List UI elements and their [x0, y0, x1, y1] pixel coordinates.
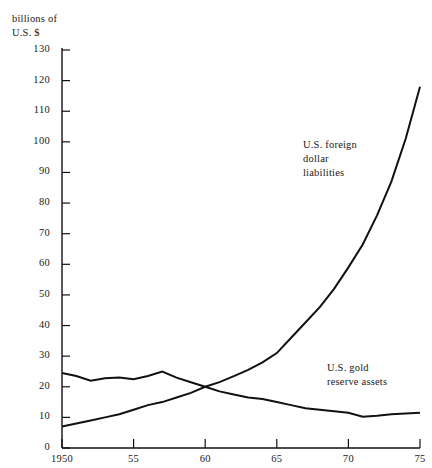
- y-tick-label: 100: [16, 135, 50, 146]
- y-tick-label: 80: [16, 196, 50, 207]
- y-tick-label: 70: [16, 227, 50, 238]
- series-label-gold: U.S. gold reserve assets: [327, 361, 387, 389]
- y-tick-label: 0: [16, 441, 50, 452]
- x-tick-label: 75: [400, 453, 432, 464]
- x-tick-label: 60: [185, 453, 225, 464]
- x-tick-label: 55: [114, 453, 154, 464]
- x-tick-label: 1950: [42, 453, 82, 464]
- y-tick-label: 130: [16, 43, 50, 54]
- y-tick-label: 20: [16, 380, 50, 391]
- x-tick-marks: [62, 439, 420, 448]
- x-tick-label: 70: [328, 453, 368, 464]
- y-tick-label: 40: [16, 319, 50, 330]
- chart-canvas: [0, 0, 432, 468]
- y-tick-marks: [62, 50, 70, 448]
- y-tick-label: 50: [16, 288, 50, 299]
- x-tick-label: 65: [257, 453, 297, 464]
- y-tick-label: 110: [16, 104, 50, 115]
- chart-figure: billions of U.S. $ 010203040506070809010…: [0, 0, 432, 468]
- y-tick-label: 120: [16, 74, 50, 85]
- series-label-liabilities: U.S. foreign dollar liabilities: [303, 138, 357, 180]
- y-tick-label: 90: [16, 165, 50, 176]
- y-tick-label: 10: [16, 410, 50, 421]
- y-tick-label: 60: [16, 257, 50, 268]
- y-tick-label: 30: [16, 349, 50, 360]
